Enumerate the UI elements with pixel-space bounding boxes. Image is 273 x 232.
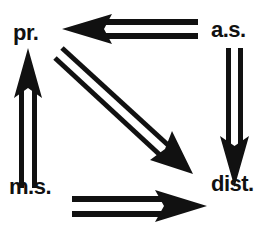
diagram-canvas: pr. a.s. m.s. dist. — [0, 0, 273, 232]
node-ms-label: m.s. — [9, 176, 51, 198]
arrow-as-to-dist — [220, 48, 249, 187]
node-as-label: a.s. — [211, 19, 246, 41]
node-pr-label: pr. — [13, 22, 38, 44]
arrow-pr-to-dist — [55, 48, 193, 174]
arrow-ms-to-dist — [72, 190, 207, 222]
node-dist-label: dist. — [211, 173, 254, 195]
arrow-ms-to-pr — [14, 48, 42, 188]
arrow-as-to-pr — [62, 14, 198, 44]
